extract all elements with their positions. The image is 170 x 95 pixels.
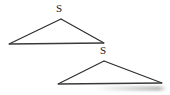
- upper-triangle-base-edge: [9, 43, 104, 44]
- upper-triangle-left-edge: [9, 19, 61, 44]
- lower-triangle-right-edge: [104, 61, 162, 83]
- upper-triangle-right-edge: [61, 19, 104, 43]
- lower-triangle-left-edge: [58, 61, 104, 84]
- upper-triangle-apex-label: S: [56, 3, 62, 14]
- lower-triangle-apex-label: S: [100, 45, 106, 56]
- lower-triangle: [58, 61, 162, 84]
- lower-triangle-base-edge: [58, 83, 162, 84]
- triangles-diagram: [0, 0, 170, 95]
- geometry-figure-canvas: S S: [0, 0, 170, 95]
- upper-triangle: [9, 19, 104, 44]
